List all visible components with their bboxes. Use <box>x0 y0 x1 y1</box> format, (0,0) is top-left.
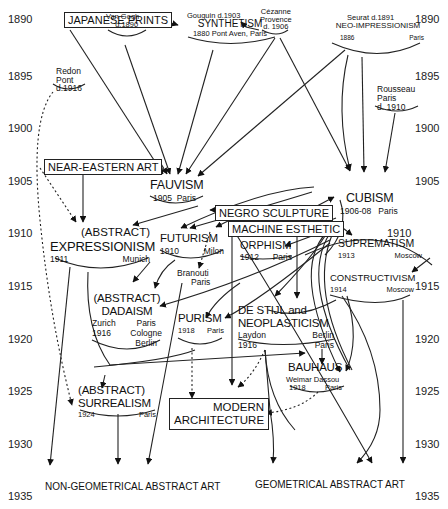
artist-note: d. 1910 <box>377 103 415 112</box>
movement-name: CUBISM <box>340 192 398 205</box>
source-near-eastern-art: NEAR-EASTERN ART <box>44 159 162 175</box>
year-label-1900-right: 1900 <box>415 122 439 134</box>
movement-constructivism: CONSTRUCTIVISM 1914Moscow <box>330 273 414 293</box>
year-label-1895-right: 1895 <box>415 70 439 82</box>
movement-modern-architecture: MODERN ARCHITECTURE <box>169 398 269 430</box>
artist-note: d.1890 <box>106 21 139 29</box>
movement-name: PURISM <box>178 313 224 325</box>
year-label-1905: 1905 <box>8 175 32 187</box>
movement-place: Milon <box>204 247 224 256</box>
movement-place: Paris <box>139 411 156 419</box>
movement-meta: 1905 Paris <box>150 194 203 203</box>
movement-name: ORPHISM <box>240 240 292 251</box>
movement-meta: Zurich1916 ParisCologneBerlin <box>92 319 162 348</box>
movement-year: 1905 <box>153 193 172 203</box>
movement-year: 1914 <box>330 286 347 294</box>
movement-meta: 1913Moscow <box>338 252 422 260</box>
movement-year: 1924 <box>78 411 95 419</box>
movement-place: Moscow <box>386 286 414 294</box>
movement-meta: 1918Paris <box>178 327 224 335</box>
year-label-1910: 1910 <box>8 227 32 239</box>
year-label-1935-right: 1935 <box>415 490 439 502</box>
movement-cubism: CUBISM 1906-08 Paris <box>340 192 398 215</box>
artist-van-gogh: Van Gogh d.1890 <box>106 13 139 28</box>
movement-name: CONSTRUCTIVISM <box>330 273 414 283</box>
artist-brancusi: Branouti Paris <box>177 269 210 288</box>
movement-year: 1906-08 <box>340 206 371 216</box>
movement-meta: 1906-08 Paris <box>340 207 398 216</box>
source-machine-esthetic: MACHINE ESTHETIC <box>228 221 344 237</box>
movement-suprematism: SUPREMATISM 1913Moscow <box>338 238 422 259</box>
movement-name: SURREALISM <box>78 398 156 410</box>
year-label-1905-right: 1905 <box>415 175 439 187</box>
year-label-1925: 1925 <box>8 385 32 397</box>
movement-detail: 1880 Pont Aven, Paris <box>180 30 280 38</box>
movement-year: 1886 <box>340 35 354 42</box>
movement-place: Paris <box>312 341 334 351</box>
movement-place: Paris <box>273 253 292 262</box>
movement-year: 1916 <box>92 329 116 339</box>
movement-place: Paris <box>409 35 424 42</box>
outcome-geometrical: GEOMETRICAL ABSTRACT ART <box>255 479 405 490</box>
movement-name: FAUVISM <box>150 179 203 192</box>
year-label-1920: 1920 <box>8 333 32 345</box>
movement-place: Berlin <box>130 339 162 349</box>
year-label-1890: 1890 <box>8 13 32 25</box>
movement-futurism: FUTURISM 1910Milon <box>160 233 224 255</box>
movement-year: 1916 <box>238 341 266 351</box>
year-label-1895: 1895 <box>8 70 32 82</box>
movement-meta: Weimar Dassou 1918Paris <box>286 376 348 393</box>
movement-name: NEO-IMPRESSIONISM <box>328 22 428 30</box>
movement-name: BAUHAUS <box>286 362 348 374</box>
year-label-1930-right: 1930 <box>415 438 439 450</box>
year-label-1900: 1900 <box>8 122 32 134</box>
movement-name-line2: NEOPLASTICISM <box>238 318 334 330</box>
movement-name: FUTURISM <box>160 233 224 245</box>
movement-synthetism: SYNTHETISM 1880 Pont Aven, Paris <box>180 19 280 38</box>
movement-meta: 1914Moscow <box>330 286 414 294</box>
artist-rousseau: Rousseau Paris d. 1910 <box>377 85 415 112</box>
movement-year: 1918 <box>289 384 306 393</box>
year-label-1915: 1915 <box>8 280 32 292</box>
movement-meta: 1886 Paris <box>328 35 428 42</box>
movement-place: Paris <box>207 327 224 335</box>
movement-place: Paris <box>325 384 342 393</box>
movement-meta: 1910Milon <box>160 247 224 256</box>
movement-name-line2: ARCHITECTURE <box>174 414 264 427</box>
movement-de-stijl: DE STIJL and NEOPLASTICISM Laydon1916 Be… <box>238 305 334 351</box>
year-label-1930: 1930 <box>8 438 32 450</box>
movement-surrealism: (ABSTRACT) SURREALISM 1924Paris <box>78 385 156 419</box>
year-label-1915-right: 1915 <box>415 280 439 292</box>
movement-name: EXPRESSIONISM <box>50 240 150 253</box>
movement-name: SUPREMATISM <box>338 238 422 249</box>
source-negro-sculpture: NEGRO SCULPTURE <box>215 205 333 221</box>
movement-year: 1910 <box>160 247 179 256</box>
movement-prefix: (ABSTRACT) <box>50 227 150 239</box>
movement-orphism: ORPHISM 1912Paris <box>240 240 292 262</box>
movement-neo-impressionism: NEO-IMPRESSIONISM 1886 Paris <box>328 22 428 42</box>
movement-meta: 1911Munich <box>50 255 150 264</box>
movement-name: DADAISM <box>92 306 162 318</box>
artist-note: d.1916 <box>56 84 82 93</box>
movement-purism: PURISM 1918Paris <box>178 313 224 334</box>
artist-redon: Redon Pont d.1916 <box>56 67 82 93</box>
movement-dadaism: (ABSTRACT) DADAISM Zurich1916 ParisColog… <box>92 293 162 348</box>
movement-year: 1911 <box>50 255 68 264</box>
movement-name: SYNTHETISM <box>180 19 280 29</box>
movement-year: 1912 <box>240 253 259 262</box>
movement-name-line1: DE STIJL and <box>238 305 334 317</box>
year-label-1920-right: 1920 <box>415 333 439 345</box>
movement-place: Moscow <box>394 252 422 260</box>
movement-place: Paris <box>378 206 397 216</box>
movement-place: Munich <box>123 255 150 264</box>
movement-expressionism: (ABSTRACT) EXPRESSIONISM 1911Munich <box>50 227 150 263</box>
movement-year: 1918 <box>178 327 195 335</box>
year-label-1935: 1935 <box>8 490 32 502</box>
movement-bauhaus: BAUHAUS Weimar Dassou 1918Paris <box>286 362 348 393</box>
movement-meta: 1912Paris <box>240 253 292 262</box>
outcome-non-geometrical: NON-GEOMETRICAL ABSTRACT ART <box>45 481 220 492</box>
movement-prefix: (ABSTRACT) <box>78 385 156 397</box>
movement-fauvism: FAUVISM 1905 Paris <box>150 179 203 202</box>
movement-place: Paris <box>177 193 196 203</box>
movement-year: 1913 <box>338 252 355 260</box>
